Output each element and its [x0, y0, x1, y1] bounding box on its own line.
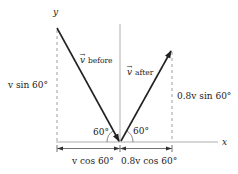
before-horizontal-component-label: v cos 60°: [71, 156, 114, 166]
vector-arrow-accent-icon: →: [127, 63, 133, 71]
vector-arrow-accent-icon: →: [80, 51, 86, 59]
vector-before-label: v → before: [80, 51, 114, 65]
angle-before-label: 60°: [93, 127, 109, 137]
after-horizontal-component-label: 0.8v cos 60°: [121, 156, 177, 166]
angle-after-label: 60°: [133, 126, 149, 136]
y-axis-label: y: [52, 7, 59, 17]
after-vertical-component-label: 0.8v sin 60°: [177, 91, 231, 101]
before-vertical-component-label: v sin 60°: [7, 80, 48, 90]
x-axis-label: x: [222, 137, 227, 147]
vector-before-arrow: [57, 28, 119, 141]
vector-after-subscript: after: [135, 68, 154, 77]
vector-after-label: v → after: [127, 63, 154, 77]
vector-before-subscript: before: [88, 56, 113, 65]
collision-velocity-diagram: y x v → before v →: [0, 0, 238, 174]
